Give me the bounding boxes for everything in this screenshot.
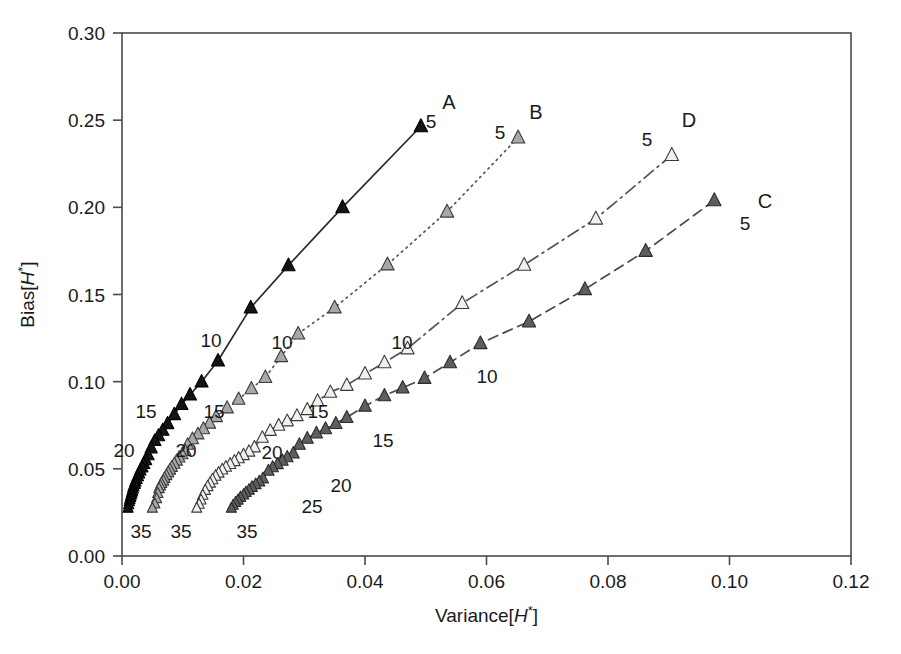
plot-frame xyxy=(122,33,851,556)
x-axis-tick-label: 0.06 xyxy=(468,571,505,592)
series-label-C: C xyxy=(758,190,772,212)
figure-container: 0.000.020.040.060.080.100.120.000.050.10… xyxy=(0,0,901,654)
series-line-B xyxy=(152,138,518,508)
point-annotation-D-10: 10 xyxy=(391,332,412,353)
bias-variance-scatter-chart: 0.000.020.040.060.080.100.120.000.050.10… xyxy=(0,0,901,654)
data-point-marker xyxy=(444,355,457,368)
point-annotation-A-5: 5 xyxy=(426,111,437,132)
point-annotation-B-5: 5 xyxy=(495,122,506,143)
data-point-marker xyxy=(292,326,305,339)
data-point-marker xyxy=(418,371,431,383)
data-point-marker xyxy=(378,389,391,401)
point-annotation-D-20: 20 xyxy=(261,442,282,463)
data-point-marker xyxy=(378,355,391,368)
y-axis-tick-label: 0.15 xyxy=(68,285,105,306)
data-point-marker xyxy=(518,257,531,270)
data-point-marker xyxy=(589,211,602,224)
point-annotation-C-25: 25 xyxy=(301,496,322,517)
point-annotation-C-15: 15 xyxy=(372,430,393,451)
point-annotation-D-35: 35 xyxy=(236,521,257,542)
point-annotation-B-35: 35 xyxy=(170,521,191,542)
point-annotation-A-20: 20 xyxy=(113,440,134,461)
data-point-marker xyxy=(359,399,372,411)
x-axis-tick-label: 0.08 xyxy=(590,571,627,592)
data-point-marker xyxy=(708,193,722,206)
x-axis-tick-label: 0.12 xyxy=(833,571,870,592)
data-point-marker xyxy=(232,392,245,404)
point-annotation-A-35: 35 xyxy=(130,521,151,542)
data-point-marker xyxy=(578,282,591,295)
point-annotation-B-20: 20 xyxy=(175,440,196,461)
data-point-marker xyxy=(211,353,224,366)
caption-partial-line xyxy=(0,636,901,650)
series-line-C xyxy=(231,200,714,508)
data-point-marker xyxy=(511,130,525,143)
point-annotation-D-15: 15 xyxy=(307,401,328,422)
data-point-marker xyxy=(245,381,258,393)
point-annotation-C-5: 5 xyxy=(740,213,751,234)
series-label-D: D xyxy=(682,109,696,131)
data-point-marker xyxy=(474,336,487,349)
data-point-marker xyxy=(328,300,341,313)
data-point-marker xyxy=(396,381,409,393)
x-axis-tick-label: 0.00 xyxy=(104,571,141,592)
y-axis-tick-label: 0.00 xyxy=(68,546,105,567)
point-annotation-B-10: 10 xyxy=(271,332,292,353)
point-annotation-B-15: 15 xyxy=(203,401,224,422)
series-C xyxy=(226,193,721,512)
data-point-marker xyxy=(341,410,353,422)
x-axis-title: Variance[H*] xyxy=(435,603,538,627)
data-point-marker xyxy=(340,378,353,390)
data-point-marker xyxy=(639,243,652,256)
series-label-B: B xyxy=(529,101,542,123)
y-axis-tick-label: 0.25 xyxy=(68,110,105,131)
y-axis-tick-label: 0.30 xyxy=(68,23,105,44)
data-point-marker xyxy=(522,314,535,327)
x-axis-tick-label: 0.02 xyxy=(225,571,262,592)
y-axis-title: Bias[H*] xyxy=(15,261,39,327)
data-point-marker xyxy=(456,296,469,309)
point-annotation-A-15: 15 xyxy=(135,401,156,422)
data-point-marker xyxy=(359,367,372,379)
point-annotation-C-20: 20 xyxy=(330,475,351,496)
x-axis-tick-label: 0.04 xyxy=(347,571,384,592)
y-axis-tick-label: 0.20 xyxy=(68,197,105,218)
data-point-marker xyxy=(665,147,679,160)
x-axis-tick-label: 0.10 xyxy=(711,571,748,592)
point-annotation-A-10: 10 xyxy=(200,330,221,351)
point-annotation-D-5: 5 xyxy=(642,129,653,150)
y-axis-tick-label: 0.10 xyxy=(68,372,105,393)
point-annotation-C-10: 10 xyxy=(476,366,497,387)
series-B xyxy=(147,130,525,512)
series-label-A: A xyxy=(442,91,456,113)
y-axis-tick-label: 0.05 xyxy=(68,459,105,480)
data-point-marker xyxy=(381,257,394,270)
